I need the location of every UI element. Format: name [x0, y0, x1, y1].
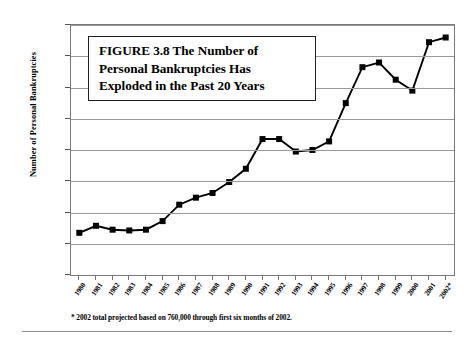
x-axis-tick-mark — [361, 276, 362, 280]
y-axis-title: Number of Personal Bankruptcies — [29, 20, 38, 210]
data-point-marker: 1998: 1,360,000 — [376, 60, 382, 66]
x-axis-tick-mark — [278, 276, 279, 280]
x-axis-tick-mark — [162, 276, 163, 280]
data-point-marker: 2000: 1,180,000 — [409, 88, 415, 94]
gridline — [71, 25, 454, 26]
x-axis-tick-mark — [262, 276, 263, 280]
x-axis-tick-mark — [295, 276, 296, 280]
x-axis-tick-mark — [395, 276, 396, 280]
gridline — [71, 244, 454, 245]
data-point-marker: 1995: 855,000 — [326, 138, 332, 144]
figure-title-line-3: Exploded in the Past 20 Years — [99, 77, 315, 95]
data-point-marker: 1986: 450,000 — [176, 202, 182, 208]
data-point-marker: 1996: 1,100,000 — [343, 100, 349, 106]
x-axis-tick-mark — [428, 276, 429, 280]
figure-title-box: FIGURE 3.8 The Number of Personal Bankru… — [88, 36, 316, 101]
x-axis-tick-mark — [95, 276, 96, 280]
figure-footnote: * 2002 total projected based on 760,000 … — [71, 313, 292, 322]
data-point-marker: 1982: 290,000 — [110, 227, 116, 233]
data-point-marker: 1992: 870,000 — [276, 136, 282, 142]
x-axis-tick-mark — [112, 276, 113, 280]
x-axis-tick-mark — [78, 276, 79, 280]
data-point-marker: 1999: 1,250,000 — [393, 77, 399, 83]
x-axis-tick-mark — [378, 276, 379, 280]
x-axis-tick-mark — [195, 276, 196, 280]
figure-title-line-2: Personal Bankruptcies Has — [99, 60, 315, 78]
data-point-marker: 1981: 315,000 — [93, 223, 99, 229]
x-axis-tick-mark — [311, 276, 312, 280]
bottom-divider — [22, 331, 452, 332]
figure-title-line-1: FIGURE 3.8 The Number of — [99, 42, 315, 60]
data-point-marker: 1985: 345,000 — [160, 218, 166, 224]
data-point-marker: 1980: 270,000 — [76, 230, 82, 236]
gridline — [71, 119, 454, 120]
figure-container: Number of Personal Bankruptcies 1,600,00… — [0, 0, 473, 343]
x-axis-tick-mark — [128, 276, 129, 280]
data-point-marker: 2002*: 1,520,000 — [443, 35, 449, 41]
gridline — [71, 150, 454, 151]
x-axis-tick-mark — [445, 276, 446, 280]
data-point-marker: 2001: 1,490,000 — [426, 39, 432, 45]
x-axis-tick-mark — [145, 276, 146, 280]
data-point-marker: 1984: 290,000 — [143, 227, 149, 233]
data-point-marker: 1988: 525,000 — [210, 190, 216, 196]
x-axis-tick-mark — [178, 276, 179, 280]
data-point-marker: 1997: 1,330,000 — [359, 64, 365, 70]
data-point-marker: 1983: 285,000 — [126, 227, 132, 233]
x-axis-tick-mark — [328, 276, 329, 280]
x-axis-tick-mark — [228, 276, 229, 280]
x-axis-tick-mark — [212, 276, 213, 280]
data-point-marker: 1990: 680,000 — [243, 166, 249, 172]
x-axis-tick-mark — [245, 276, 246, 280]
data-point-marker: 1987: 495,000 — [193, 195, 199, 201]
x-axis-tick-mark — [345, 276, 346, 280]
gridline — [71, 181, 454, 182]
gridline — [71, 213, 454, 214]
data-point-marker: 1991: 870,000 — [260, 136, 266, 142]
x-axis-tick-mark — [411, 276, 412, 280]
